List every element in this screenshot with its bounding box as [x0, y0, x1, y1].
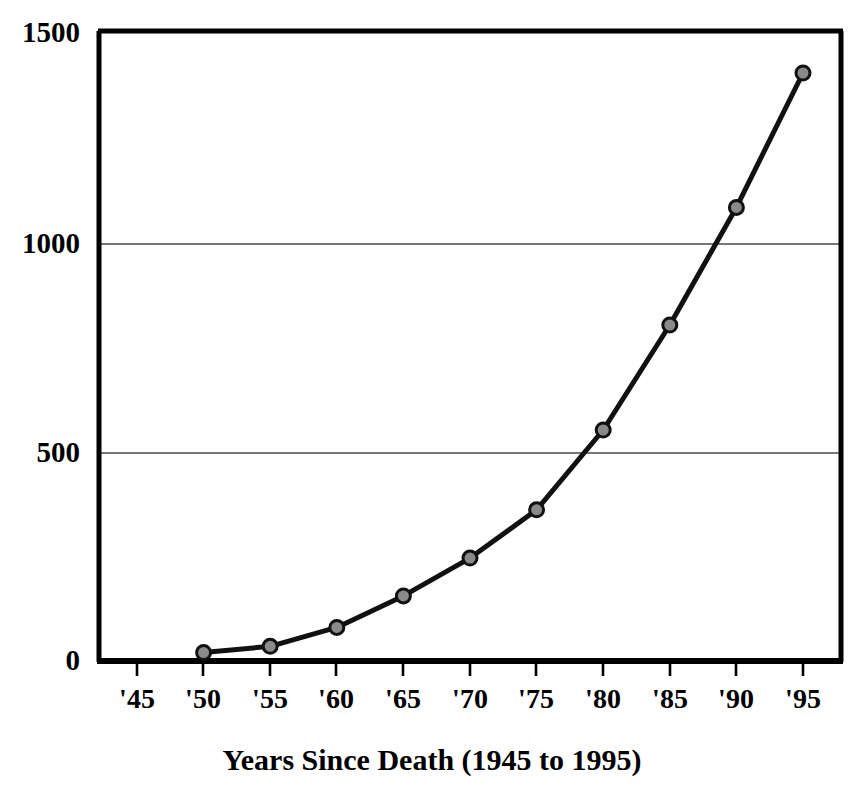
chart-figure: 1500 1000 500 0 '45 '50 '55 '60 '65 '70 …: [0, 0, 866, 798]
y-tick-label-0: 0: [66, 644, 81, 676]
plot-area-background: [97, 31, 843, 662]
data-point-marker-95[interactable]: [796, 66, 810, 80]
x-tick-label-55: '55: [252, 683, 288, 714]
y-tick-label-1500: 1500: [22, 16, 80, 48]
x-tick-label-45: '45: [119, 683, 155, 714]
x-tick-label-70: '70: [452, 683, 488, 714]
y-tick-label-500: 500: [37, 436, 81, 468]
data-point-marker-85[interactable]: [663, 318, 677, 332]
x-tick-label-90: '90: [718, 683, 754, 714]
y-tick-label-1000: 1000: [22, 227, 80, 259]
x-axis-tick-labels: '45 '50 '55 '60 '65 '70 '75 '80 '85 '90 …: [119, 683, 821, 714]
x-tick-marks: [137, 663, 803, 676]
x-tick-label-60: '60: [318, 683, 354, 714]
x-tick-label-85: '85: [652, 683, 688, 714]
x-axis-title: Years Since Death (1945 to 1995): [222, 743, 641, 777]
x-tick-label-95: '95: [785, 683, 821, 714]
x-tick-label-50: '50: [185, 683, 221, 714]
x-tick-label-75: '75: [518, 683, 554, 714]
data-point-marker-80[interactable]: [596, 423, 610, 437]
data-point-marker-90[interactable]: [729, 200, 743, 214]
line-chart-canvas: 1500 1000 500 0 '45 '50 '55 '60 '65 '70 …: [0, 0, 866, 798]
data-point-marker-70[interactable]: [463, 551, 477, 565]
data-point-marker-60[interactable]: [330, 620, 344, 634]
data-point-marker-55[interactable]: [263, 639, 277, 653]
y-axis-tick-labels: 1500 1000 500 0: [22, 16, 80, 676]
x-tick-label-80: '80: [585, 683, 621, 714]
data-point-marker-50[interactable]: [197, 646, 211, 660]
data-point-marker-75[interactable]: [530, 503, 544, 517]
x-tick-label-65: '65: [385, 683, 421, 714]
data-point-marker-65[interactable]: [396, 589, 410, 603]
